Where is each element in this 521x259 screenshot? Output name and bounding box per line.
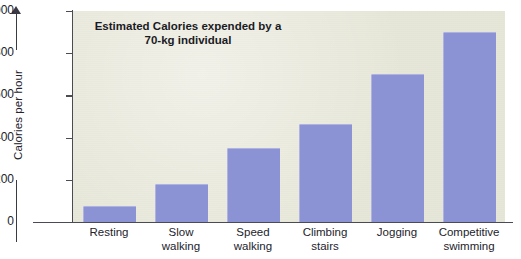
category-label-line: Climbing (285, 226, 365, 240)
y-tick-label: 600 (0, 87, 14, 101)
y-tick-label: 1000 (0, 3, 14, 17)
bar-jogging (371, 74, 424, 222)
category-label-climbing-stairs: Climbingstairs (285, 226, 365, 253)
y-tick-mark (66, 95, 73, 96)
y-tick-mark (66, 138, 73, 139)
x-axis-line (33, 222, 513, 223)
category-label-resting: Resting (69, 226, 149, 240)
y-axis-label: Calories per hour (7, 50, 29, 180)
category-label-line: Competitive (429, 226, 509, 240)
y-tick-label: 400 (0, 130, 14, 144)
category-label-line: Slow (141, 226, 221, 240)
y-tick-mark (66, 53, 73, 54)
category-label-line: Speed (213, 226, 293, 240)
y-tick-label: 800 (0, 45, 14, 59)
bar-resting (83, 206, 136, 222)
category-label-slow-walking: Slowwalking (141, 226, 221, 253)
bar-series (73, 11, 505, 222)
category-label-line: walking (213, 240, 293, 254)
category-label-line: stairs (285, 240, 365, 254)
bar-slow-walking (155, 184, 208, 222)
y-tick-mark (66, 11, 73, 12)
bar-climbing-stairs (299, 124, 352, 222)
category-label-line: walking (141, 240, 221, 254)
bar-speed-walking (227, 148, 280, 222)
category-label-speed-walking: Speedwalking (213, 226, 293, 253)
y-tick-mark (66, 180, 73, 181)
category-label-line: Jogging (357, 226, 437, 240)
y-tick-mark (66, 222, 73, 223)
category-label-competitive-swimming: Competitiveswimming (429, 226, 509, 253)
y-tick-label: 0 (0, 214, 14, 228)
category-label-jogging: Jogging (357, 226, 437, 240)
y-tick-label: 200 (0, 172, 14, 186)
category-label-line: Resting (69, 226, 149, 240)
x-axis-category-labels: RestingSlowwalkingSpeedwalkingClimbingst… (73, 226, 505, 259)
bar-competitive-swimming (443, 32, 496, 222)
chart-figure: Calories per hour 02004006008001000 Esti… (0, 0, 521, 259)
category-label-line: swimming (429, 240, 509, 254)
